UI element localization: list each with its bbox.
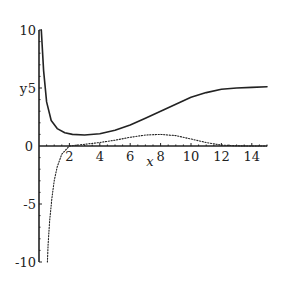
y-tick-label: 10	[19, 23, 36, 38]
chart-plot: 24681012140105-5-10yx	[0, 0, 288, 290]
y-tick-label: -10	[15, 255, 36, 270]
x-tick-label: 6	[126, 149, 134, 164]
x-tick-label: 12	[213, 149, 230, 164]
x-tick-label: 8	[156, 149, 164, 164]
x-axis-label: x	[146, 154, 154, 169]
y-axis-label: y	[19, 81, 28, 96]
y-tick-label: -5	[23, 197, 36, 212]
x-tick-label: 10	[183, 149, 200, 164]
series-line-solid	[41, 30, 267, 135]
y-tick-label: 5	[28, 81, 36, 96]
origin-label: 0	[25, 139, 33, 154]
x-tick-label: 14	[244, 149, 261, 164]
x-tick-label: 2	[65, 149, 73, 164]
x-tick-label: 4	[96, 149, 104, 164]
